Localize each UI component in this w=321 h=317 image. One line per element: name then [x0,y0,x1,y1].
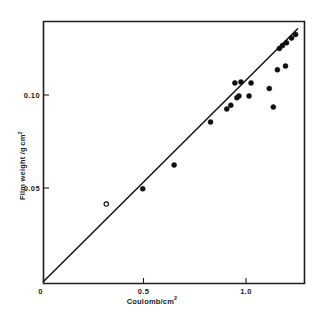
y-axis-title-text: Film weight /g [18,147,27,200]
data-point [224,106,229,111]
data-point [271,105,276,110]
y-tick-label-1: 0.10 [24,91,40,100]
svg-text:Coulomb/cm2: Coulomb/cm2 [127,295,178,305]
data-point [293,32,298,37]
data-point [267,86,272,91]
x-axis-title: Coulomb/cm2 [127,295,178,305]
regression-fit-line [44,29,298,282]
data-point [172,162,177,167]
x-axis-title-text: Coulomb/cm [127,297,175,306]
data-point [249,80,254,85]
y-axis-title-exponent: 2 [17,131,23,134]
y-axis-title-unit: cm [18,134,27,145]
x-tick-label-2: 1.0 [240,287,252,296]
x-tick-label-0: 0 [38,287,43,296]
scatter-plot: 0 0.5 1.0 0.05 0.10 Coulomb/cm2 Film wei… [0,0,321,317]
figure-container: 0 0.5 1.0 0.05 0.10 Coulomb/cm2 Film wei… [0,0,321,317]
svg-text:Film weight /gcm2: Film weight /gcm2 [17,131,27,200]
data-point [140,186,145,191]
x-axis-ticks [44,278,247,284]
data-point [289,36,294,41]
data-point [228,103,233,108]
y-axis-title: Film weight /gcm2 [17,131,27,200]
data-point [236,93,241,98]
x-tick-label-1: 0.5 [138,287,150,296]
data-point [247,93,252,98]
data-point [208,120,213,125]
data-point [275,67,280,72]
y-axis-ticks [44,95,50,188]
data-point [104,202,108,206]
x-axis-title-exponent: 2 [174,295,177,301]
data-point [284,40,289,45]
data-point [232,80,237,85]
data-point [238,79,243,84]
data-point [283,64,288,69]
